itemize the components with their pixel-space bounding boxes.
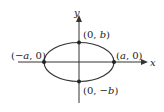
label-left: (−a, 0)	[11, 50, 46, 61]
ellipse-diagram: y x (0, b) (0, −b) (−a, 0) (a, 0)	[0, 0, 164, 112]
label-bottom: (0, −b)	[83, 85, 118, 96]
label-right: (a, 0)	[116, 50, 143, 61]
x-axis-label: x	[150, 57, 156, 68]
vertex-bottom	[77, 80, 81, 84]
y-axis-label: y	[73, 7, 80, 18]
vertex-top	[77, 41, 81, 45]
label-top: (0, b)	[83, 29, 110, 40]
